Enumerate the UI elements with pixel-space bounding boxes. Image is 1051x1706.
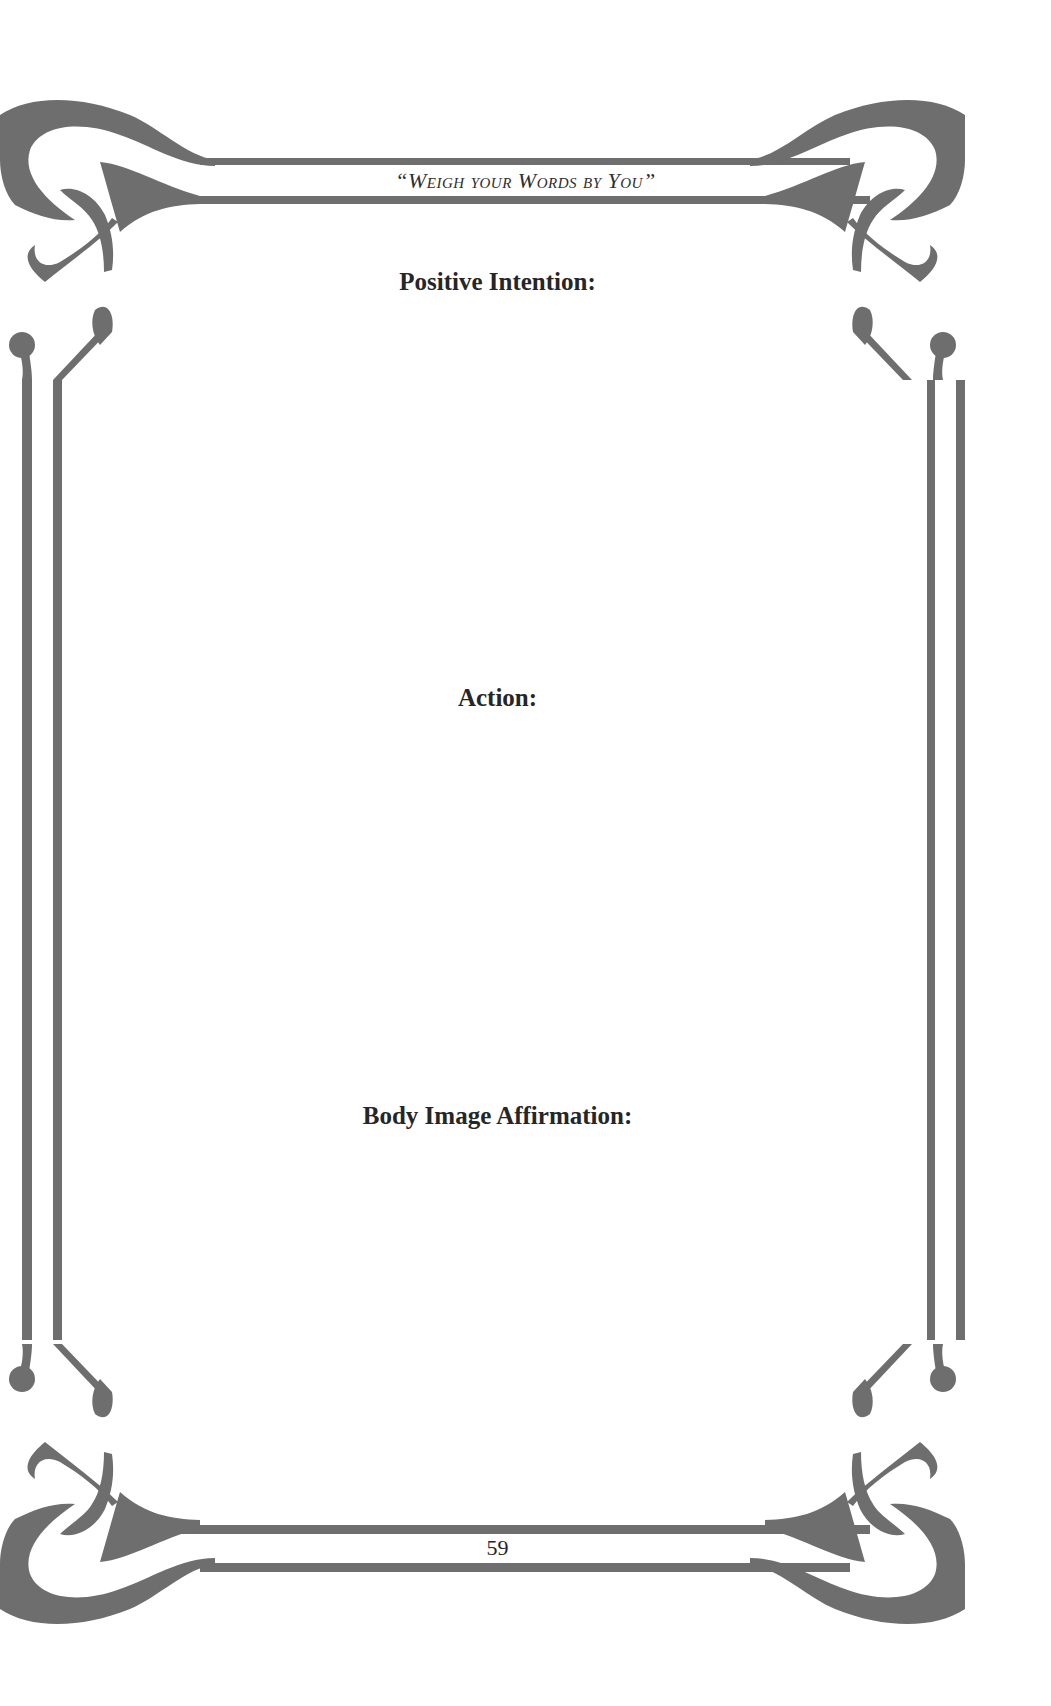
action-heading: Action: [0,684,995,712]
corner-ornament-bottom-left-icon [0,1344,215,1624]
right-outer-line [956,380,965,1340]
page-number: 59 [0,1535,995,1561]
body-image-affirmation-heading: Body Image Affirmation: [0,1102,995,1130]
corner-ornament-bottom-right-icon [750,1344,965,1624]
right-inner-line [927,380,935,1340]
corner-ornament-top-right-icon [750,100,965,380]
positive-intention-heading: Positive Intention: [0,268,995,296]
ornamental-frame-icon [0,0,1051,1706]
left-outer-line [22,380,32,1340]
running-header: “Weigh your Words by You” [0,166,1051,196]
left-inner-line [53,380,62,1340]
corner-ornament-top-left-icon [0,100,215,380]
